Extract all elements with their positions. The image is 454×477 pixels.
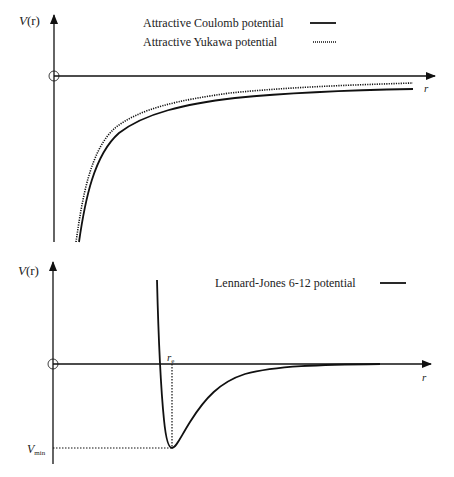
vmin-label: Vmin	[27, 442, 46, 457]
bottom-panel: V(r) r re Vmin Lennard-Jones 6-12 potent…	[18, 262, 431, 464]
top-legend: Attractive Coulomb potential Attractive …	[143, 16, 336, 49]
top-y-axis-label: V(r)	[19, 13, 40, 28]
top-panel: V(r) r Attractive Coulomb potential Attr…	[19, 13, 435, 242]
potential-diagram: V(r) r Attractive Coulomb potential Attr…	[0, 0, 454, 477]
bottom-y-axis-label: V(r)	[18, 263, 39, 278]
yukawa-curve	[76, 83, 413, 242]
legend-coulomb-label: Attractive Coulomb potential	[143, 16, 284, 30]
legend-yukawa-label: Attractive Yukawa potential	[143, 35, 278, 49]
legend-lj-label: Lennard-Jones 6-12 potential	[215, 276, 356, 290]
coulomb-curve	[79, 89, 413, 242]
bottom-x-axis-label: r	[422, 371, 427, 383]
bottom-legend: Lennard-Jones 6-12 potential	[215, 276, 406, 290]
re-label: re	[167, 351, 174, 365]
top-x-axis-label: r	[424, 82, 429, 94]
